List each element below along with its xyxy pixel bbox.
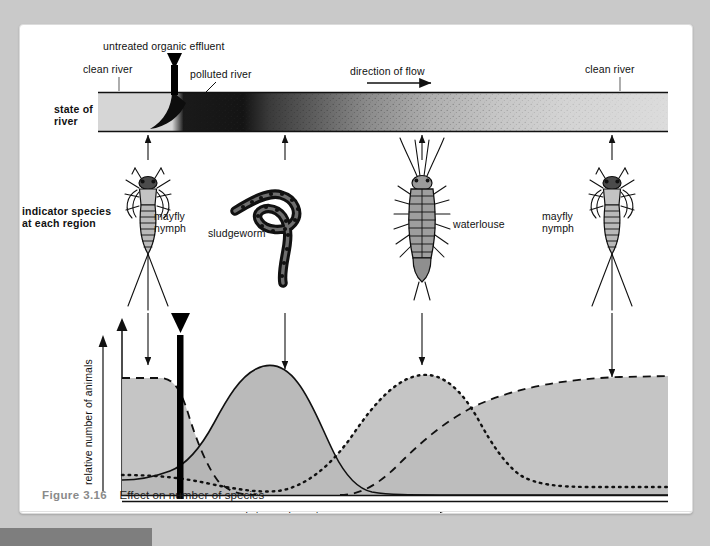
label-polluted-river: polluted river xyxy=(190,68,252,80)
species-label-mayfly-right: mayfly nymph xyxy=(542,211,574,234)
page-root: untreated organic effluent clean river p… xyxy=(0,0,710,546)
mayfly-nymph-icon xyxy=(589,168,635,310)
graph-effluent-bar xyxy=(177,335,184,499)
species-label-mayfly-left: mayfly nymph xyxy=(154,211,186,234)
waterlouse-icon xyxy=(394,138,450,300)
label-indicator-species: indicator species at each region xyxy=(22,206,111,229)
label-clean-river-left: clean river xyxy=(83,63,133,75)
label-direction-of-flow: direction of flow xyxy=(350,65,425,77)
figure-diagram xyxy=(20,25,692,513)
label-state-of-river: state of river xyxy=(54,104,93,127)
effluent-pipe xyxy=(171,65,178,95)
figure-number: Figure 3.16 xyxy=(42,489,107,501)
graph-group xyxy=(99,313,668,513)
label-untreated-effluent: untreated organic effluent xyxy=(103,40,225,52)
figure-caption: Figure 3.16 Effect on number of species xyxy=(42,489,264,501)
y-axis-label: relative number of animals xyxy=(82,359,94,485)
graph-effluent-arrow xyxy=(171,313,190,333)
effluent-arrow xyxy=(167,53,182,69)
river-speckle xyxy=(98,93,668,131)
figure-caption-text: Effect on number of species xyxy=(119,489,264,501)
y-axis-arrowhead xyxy=(117,318,128,331)
species-to-graph-arrows xyxy=(148,313,612,377)
figure-card: untreated organic effluent clean river p… xyxy=(19,24,693,514)
river-to-species-arrows xyxy=(148,135,612,160)
mayfly-nymph-icon xyxy=(125,168,171,310)
label-clean-river-right: clean river xyxy=(585,63,635,75)
bottom-tab-bar xyxy=(0,528,152,546)
species-label-sludgeworm: sludgeworm xyxy=(208,227,266,239)
species-label-waterlouse: waterlouse xyxy=(453,218,505,230)
caption-divider xyxy=(20,511,692,512)
